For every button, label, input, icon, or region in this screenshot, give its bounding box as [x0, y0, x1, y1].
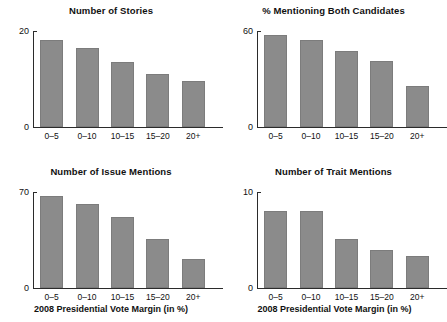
bar-series: 0–5 0–10 10–15 15–20 20+	[258, 31, 435, 127]
bar	[146, 239, 169, 288]
bar-series: 0–5 0–10 10–15 15–20 20+	[34, 31, 211, 127]
y-tick-label-min: 0	[248, 284, 253, 293]
x-tick-label: 0–5	[45, 292, 59, 302]
bar-slot: 10–15	[105, 192, 140, 288]
y-tick-label-max: 60	[243, 27, 253, 36]
bar-slot: 0–5	[34, 31, 69, 127]
bar-slot: 0–10	[293, 192, 328, 288]
x-tick-label: 15–20	[146, 292, 170, 302]
bar	[264, 35, 287, 127]
chart-title: Number of Issue Mentions	[0, 166, 222, 177]
bar-slot: 0–10	[293, 31, 328, 127]
plot-area: 10 0 0–5 0–10 10–15 15–20	[257, 192, 435, 289]
x-tick-label: 0–5	[45, 131, 59, 141]
x-axis-line	[33, 288, 223, 289]
bar	[370, 61, 393, 127]
x-tick-label: 10–15	[111, 131, 135, 141]
bar	[406, 256, 429, 288]
x-tick-label: 10–15	[111, 292, 135, 302]
bar	[335, 51, 358, 127]
x-axis-line	[257, 127, 447, 128]
bar-slot: 20+	[176, 192, 211, 288]
bar-slot: 20+	[400, 192, 435, 288]
x-tick-label: 0–5	[269, 292, 283, 302]
bar	[335, 239, 358, 288]
x-tick-label: 10–15	[335, 131, 359, 141]
x-tick-label: 20+	[410, 292, 424, 302]
bar-slot: 10–15	[329, 192, 364, 288]
x-tick-label: 0–10	[302, 131, 321, 141]
x-tick-label: 0–10	[302, 292, 321, 302]
bar-slot: 10–15	[329, 31, 364, 127]
x-axis-title: 2008 Presidential Vote Margin (in %)	[222, 304, 445, 314]
chart-panel-percent-mentioning-both-candidates: % Mentioning Both Candidates 60 0 0–5 0–…	[222, 0, 445, 161]
bar	[111, 62, 134, 127]
bar-slot: 0–10	[69, 192, 104, 288]
x-tick-label: 0–10	[78, 131, 97, 141]
bar	[300, 40, 323, 127]
bar	[264, 211, 287, 288]
bar-slot: 0–5	[258, 192, 293, 288]
bar	[76, 48, 99, 127]
y-tick-label-min: 0	[24, 123, 29, 132]
x-tick-label: 10–15	[335, 292, 359, 302]
bar	[146, 74, 169, 127]
bar-slot: 0–5	[34, 192, 69, 288]
plot-area: 20 0 0–5 0–10 10–15 15–20	[33, 31, 211, 128]
bar	[300, 211, 323, 288]
x-axis-line	[257, 288, 447, 289]
bar	[76, 204, 99, 288]
bar-slot: 15–20	[140, 192, 175, 288]
x-tick-label: 0–10	[78, 292, 97, 302]
x-tick-label: 20+	[186, 292, 200, 302]
x-axis-title: 2008 Presidential Vote Margin (in %)	[0, 304, 222, 314]
bar	[182, 259, 205, 288]
y-tick-label-min: 0	[248, 123, 253, 132]
chart-panel-number-of-issue-mentions: Number of Issue Mentions 70 0 0–5 0–10 1…	[0, 161, 222, 322]
bar-slot: 15–20	[140, 31, 175, 127]
x-tick-label: 15–20	[370, 131, 394, 141]
bar-slot: 20+	[176, 31, 211, 127]
bar-slot: 0–5	[258, 31, 293, 127]
bar	[111, 217, 134, 288]
bar-slot: 15–20	[364, 31, 399, 127]
bar-slot: 0–10	[69, 31, 104, 127]
bar-slot: 20+	[400, 31, 435, 127]
bar-series: 0–5 0–10 10–15 15–20 20+	[34, 192, 211, 288]
plot-area: 70 0 0–5 0–10 10–15 15–20	[33, 192, 211, 289]
x-tick-label: 15–20	[370, 292, 394, 302]
y-tick-label-max: 10	[243, 188, 253, 197]
bar	[182, 81, 205, 127]
plot-area: 60 0 0–5 0–10 10–15 15–20	[257, 31, 435, 128]
x-tick-label: 20+	[186, 131, 200, 141]
chart-title: % Mentioning Both Candidates	[222, 5, 445, 16]
y-tick-label-max: 20	[19, 27, 29, 36]
bar-series: 0–5 0–10 10–15 15–20 20+	[258, 192, 435, 288]
x-tick-label: 0–5	[269, 131, 283, 141]
bar	[370, 250, 393, 288]
bar	[40, 40, 63, 127]
bar	[40, 196, 63, 288]
x-axis-line	[33, 127, 223, 128]
chart-title: Number of Trait Mentions	[222, 166, 445, 177]
y-tick-label-max: 70	[19, 188, 29, 197]
y-tick-label-min: 0	[24, 284, 29, 293]
bar-slot: 10–15	[105, 31, 140, 127]
bar	[406, 86, 429, 127]
x-tick-label: 15–20	[146, 131, 170, 141]
x-tick-label: 20+	[410, 131, 424, 141]
chart-title: Number of Stories	[0, 5, 222, 16]
chart-panel-number-of-stories: Number of Stories 20 0 0–5 0–10 10–15	[0, 0, 222, 161]
chart-panel-number-of-trait-mentions: Number of Trait Mentions 10 0 0–5 0–10 1…	[222, 161, 445, 322]
bar-slot: 15–20	[364, 192, 399, 288]
